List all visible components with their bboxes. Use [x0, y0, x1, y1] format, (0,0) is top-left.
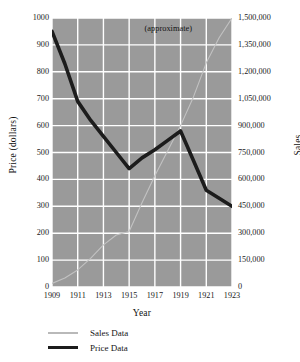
- plot-area: [52, 18, 232, 287]
- y-axis-left-tick-label: 300: [37, 202, 49, 210]
- legend-item-sales: Sales Data: [46, 325, 246, 340]
- y-axis-right-tick-label: 150,000: [238, 256, 265, 264]
- y-axis-left-tick-label: 900: [37, 41, 49, 49]
- y-axis-right-tick-label: 1,350,000: [238, 41, 271, 49]
- y-axis-right-tick-label: 1,200,000: [238, 68, 271, 76]
- legend-label-price: Price Data: [90, 343, 128, 353]
- y-axis-left-tick-label: 600: [37, 122, 49, 130]
- y-axis-right-tick-label: 750,000: [238, 149, 265, 157]
- y-axis-left-title: Price (dollars): [8, 85, 18, 205]
- y-axis-left-tick-label: 100: [37, 256, 49, 264]
- y-axis-left-tick-label: 1000: [33, 14, 49, 22]
- legend-item-price: Price Data: [46, 340, 246, 355]
- y-axis-left-tick-label: 400: [37, 175, 49, 183]
- y-axis-right-title: Sales: [293, 90, 300, 200]
- y-axis-left-tick-label: 800: [37, 68, 49, 76]
- y-axis-right-tick-label: 300,000: [238, 229, 265, 237]
- y-axis-left-tick-label: 500: [37, 149, 49, 157]
- x-axis-tick-label: 1923: [217, 292, 247, 300]
- series-line-sales-data: [52, 18, 232, 283]
- y-axis-right-tick-label: 600,000: [238, 175, 265, 183]
- gridlines: [52, 18, 232, 287]
- y-axis-right-tick-label: 1,050,000: [238, 95, 271, 103]
- chart-container: Price (dollars) Sales Year 0100200300400…: [0, 0, 300, 362]
- y-axis-left-tick-label: 200: [37, 229, 49, 237]
- y-axis-left-tick-label: 700: [37, 95, 49, 103]
- legend-swatch-price-icon: [48, 346, 78, 349]
- y-axis-right-tick-label: 900,000: [238, 122, 265, 130]
- plot-svg: [52, 18, 232, 287]
- y-axis-right-tick-label: 450,000: [238, 202, 265, 210]
- y-axis-right-tick-label: 0: [238, 283, 242, 291]
- legend-swatch-sales-icon: [48, 332, 78, 334]
- y-axis-right-tick-label: 1,500,000: [238, 14, 271, 22]
- data-series: [52, 18, 232, 283]
- approximate-annotation: (approximate): [145, 24, 192, 33]
- legend-label-sales: Sales Data: [90, 328, 128, 338]
- x-axis-title: Year: [52, 308, 232, 318]
- y-axis-left-tick-label: 0: [45, 283, 49, 291]
- chart-legend: Sales Data Price Data: [46, 325, 246, 355]
